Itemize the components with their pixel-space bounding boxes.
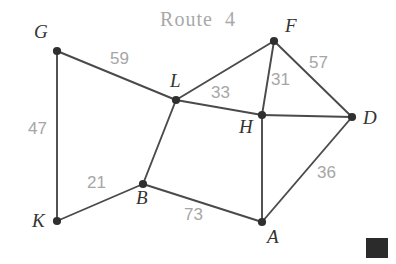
graph-node-h (258, 111, 266, 119)
graph-drawing (0, 0, 396, 264)
node-label-g: G (34, 22, 48, 41)
edge-weight-a-d: 36 (317, 164, 336, 181)
node-label-f: F (285, 16, 297, 35)
graph-edge-h-d (262, 115, 352, 117)
node-label-l: L (170, 71, 181, 90)
graph-node-k (53, 217, 61, 225)
node-label-d: D (363, 108, 377, 127)
edge-weight-k-b: 21 (87, 174, 106, 191)
diagram-canvas: Route 4 GLFDHKBA 5947217333315736 (0, 0, 396, 264)
graph-node-g (53, 47, 61, 55)
node-label-h: H (239, 117, 253, 136)
corner-marker (366, 238, 388, 258)
graph-node-l (172, 96, 180, 104)
edge-weight-b-a: 73 (184, 206, 203, 223)
node-label-k: K (32, 211, 45, 230)
page-title: Route 4 (0, 8, 396, 31)
graph-node-d (348, 113, 356, 121)
edge-weight-f-d: 57 (309, 54, 328, 71)
graph-node-f (270, 37, 278, 45)
graph-edge-l-h (176, 100, 262, 115)
node-label-a: A (267, 227, 279, 246)
edge-weight-g-l: 59 (110, 50, 129, 67)
edge-weight-l-h: 33 (211, 84, 230, 101)
graph-edge-a-d (262, 117, 352, 222)
graph-node-a (258, 218, 266, 226)
edge-weight-g-k: 47 (28, 120, 47, 137)
edge-weight-f-h: 31 (271, 71, 290, 88)
node-label-b: B (136, 188, 148, 207)
graph-edge-b-l (143, 100, 176, 184)
